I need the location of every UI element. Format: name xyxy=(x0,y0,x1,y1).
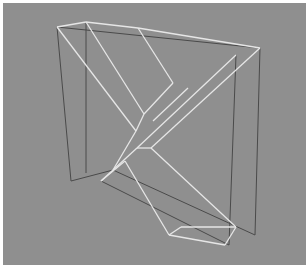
visible-edge xyxy=(125,161,169,235)
visible-edge xyxy=(169,227,181,235)
visible-edge xyxy=(101,161,125,181)
hidden-edge xyxy=(229,55,236,245)
visible-edge xyxy=(225,227,236,245)
hidden-edge xyxy=(57,27,260,48)
visible-edge xyxy=(86,22,138,28)
visible-edge xyxy=(151,48,260,148)
hidden-edge xyxy=(57,27,71,181)
visible-edge xyxy=(138,28,260,48)
visible-edge xyxy=(137,55,236,148)
wireframe-x-shape xyxy=(3,3,306,265)
render-viewport xyxy=(3,3,306,265)
visible-edge xyxy=(86,22,144,114)
visible-edge xyxy=(138,28,173,83)
visible-edge xyxy=(151,148,236,227)
visible-edge xyxy=(57,27,136,131)
visible-edge xyxy=(144,83,173,114)
visible-edge xyxy=(136,114,144,131)
visible-edge xyxy=(113,131,136,170)
visible-edge xyxy=(57,22,86,27)
hidden-edge xyxy=(101,181,229,245)
hidden-edge xyxy=(255,48,260,235)
visible-edge xyxy=(169,235,225,245)
